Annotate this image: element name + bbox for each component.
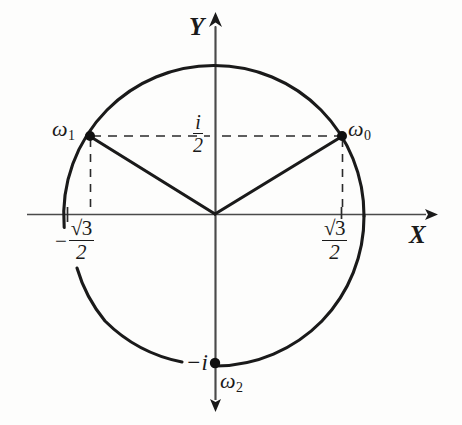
fraction-denominator: 2 <box>69 241 94 263</box>
point-omega2 <box>210 358 220 368</box>
fraction-sqrt3-over-2-right: √3 2 <box>322 218 347 264</box>
fraction-half-i: i 2 <box>193 112 203 156</box>
omega2-base: ω <box>220 368 236 393</box>
x-tick-label-sqrt3-over-2: √3 2 <box>322 218 347 264</box>
fraction-numerator: √3 <box>69 218 94 241</box>
negative-sign: − <box>55 231 69 252</box>
y-tick-label-negative-i: −i <box>186 351 208 374</box>
omega0-base: ω <box>348 116 364 141</box>
fraction-numerator: √3 <box>322 218 347 241</box>
unit-circle-arc-lower-left <box>77 268 182 362</box>
point-omega1 <box>85 131 95 141</box>
omega1-base: ω <box>52 116 68 141</box>
omega0-subscript: 0 <box>364 128 372 143</box>
fraction-denominator: 2 <box>193 134 203 155</box>
omega2-subscript: 2 <box>236 380 244 395</box>
point-omega0 <box>337 131 347 141</box>
complex-plane-figure: Y X ω0 ω1 ω2 i 2 − √3 2 √3 2 <box>0 0 462 425</box>
point-label-omega2: ω2 <box>220 370 243 395</box>
fraction-sqrt3-over-2-left: √3 2 <box>69 218 94 264</box>
fraction-denominator: 2 <box>322 241 347 263</box>
diagram-canvas <box>0 0 462 425</box>
signed-fraction-left: − √3 2 <box>55 218 94 264</box>
omega1-subscript: 1 <box>68 128 76 143</box>
y-axis-arrowhead <box>209 12 222 27</box>
x-tick-label-negative-sqrt3-over-2: − √3 2 <box>55 218 94 264</box>
y-tick-label-half-i: i 2 <box>193 112 203 156</box>
point-label-omega0: ω0 <box>348 118 371 143</box>
fraction-numerator: i <box>193 112 203 134</box>
x-axis-label: X <box>409 222 426 247</box>
point-label-omega1: ω1 <box>52 118 75 143</box>
radius-to-omega0 <box>215 137 341 214</box>
y-axis-label: Y <box>189 14 204 39</box>
